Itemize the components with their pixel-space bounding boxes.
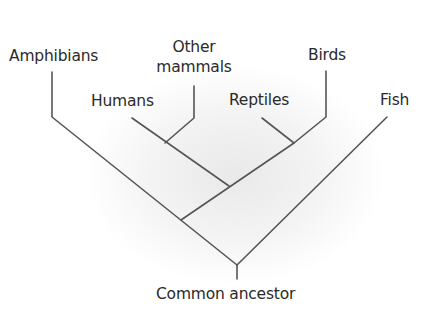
label-birds: Birds <box>308 46 346 64</box>
label-humans: Humans <box>91 92 154 110</box>
fish-branch <box>237 117 387 265</box>
label-other-mammals-line2: mammals <box>149 58 239 76</box>
cladogram-diagram: Amphibians Other mammals Humans Reptiles… <box>0 0 421 316</box>
reptiles-branch <box>262 118 294 143</box>
label-reptiles: Reptiles <box>229 91 289 109</box>
humans-branch <box>132 118 229 186</box>
label-amphibians: Amphibians <box>9 47 98 65</box>
label-common-ancestor: Common ancestor <box>156 285 295 303</box>
label-other-mammals-line1: Other <box>149 38 239 56</box>
label-fish: Fish <box>380 91 409 109</box>
other-mammals-branch <box>165 86 194 143</box>
